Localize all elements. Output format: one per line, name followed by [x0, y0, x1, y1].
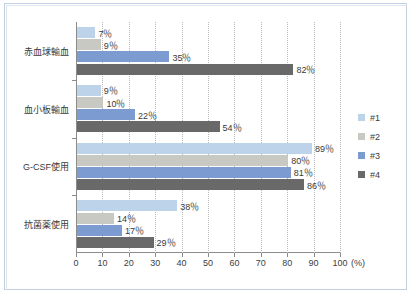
chart-page: 0102030405060708090100(%)7％9％35％82％9％10％… — [0, 0, 413, 296]
x-axis-tick — [287, 253, 288, 257]
x-axis-tick — [155, 253, 156, 257]
bar-series1-1 — [77, 27, 95, 38]
y-axis-tick — [72, 80, 76, 81]
bar-series3-2 — [77, 109, 135, 120]
x-axis-tick-label: 90 — [309, 258, 319, 268]
legend-swatch-icon — [358, 171, 365, 178]
y-axis-tick — [72, 195, 76, 196]
x-axis-tick-label: 30 — [150, 258, 160, 268]
bar-series4-3 — [77, 179, 304, 190]
bar-series2-3 — [77, 155, 288, 166]
bar-series1-4 — [77, 200, 177, 211]
category-label: 赤血球輸血 — [24, 44, 69, 57]
x-axis-tick-label: 20 — [124, 258, 134, 268]
x-axis-tick-label: 0 — [73, 258, 78, 268]
bar-series3-4 — [77, 225, 122, 236]
x-gridline — [261, 22, 262, 253]
x-axis-tick — [76, 253, 77, 257]
bar-series2-1 — [77, 39, 101, 50]
bar-series2-2 — [77, 97, 103, 108]
legend-swatch-icon — [358, 133, 365, 140]
bar-series2-4 — [77, 213, 114, 224]
legend-label: #4 — [370, 170, 380, 180]
x-axis-tick-label: 50 — [203, 258, 213, 268]
bar-series4-1 — [77, 64, 293, 75]
x-axis-unit-label: (%) — [351, 258, 365, 268]
bar-value-label: 22％ — [138, 108, 157, 121]
x-gridline — [314, 22, 315, 253]
x-gridline — [208, 22, 209, 253]
bar-series4-2 — [77, 121, 220, 132]
bar-value-label: 35％ — [172, 50, 191, 63]
bar-value-label: 38％ — [180, 199, 199, 212]
bar-series3-1 — [77, 51, 169, 62]
bar-value-label: 9％ — [104, 84, 118, 97]
plot-area: 0102030405060708090100(%)7％9％35％82％9％10％… — [76, 22, 340, 253]
category-label: 血小板輸血 — [24, 102, 69, 115]
bar-value-label: 54％ — [223, 120, 242, 133]
x-axis-tick — [129, 253, 130, 257]
x-axis-tick — [234, 253, 235, 257]
bar-value-label: 9％ — [104, 38, 118, 51]
legend-label: #3 — [370, 151, 380, 161]
x-axis-tick — [261, 253, 262, 257]
bar-series1-2 — [77, 85, 101, 96]
legend-item[interactable]: #1 — [358, 110, 404, 125]
x-gridline — [287, 22, 288, 253]
x-axis-tick-label: 100 — [332, 258, 347, 268]
bar-value-label: 10％ — [106, 96, 125, 109]
x-axis-tick-label: 80 — [282, 258, 292, 268]
chart-legend: #1#2#3#4 — [358, 110, 404, 186]
x-axis-tick — [182, 253, 183, 257]
legend-item[interactable]: #4 — [358, 167, 404, 182]
bar-value-label: 89％ — [315, 142, 334, 155]
bar-value-label: 82％ — [296, 63, 315, 76]
bar-value-label: 7％ — [98, 26, 112, 39]
legend-item[interactable]: #2 — [358, 129, 404, 144]
x-axis-tick — [208, 253, 209, 257]
x-axis-tick-label: 70 — [256, 258, 266, 268]
legend-swatch-icon — [358, 114, 365, 121]
bar-value-label: 17％ — [125, 224, 144, 237]
legend-swatch-icon — [358, 152, 365, 159]
x-axis-tick — [102, 253, 103, 257]
legend-label: #2 — [370, 132, 380, 142]
x-axis-tick-label: 40 — [177, 258, 187, 268]
x-axis-tick — [340, 253, 341, 257]
legend-item[interactable]: #3 — [358, 148, 404, 163]
x-gridline — [234, 22, 235, 253]
bar-value-label: 29％ — [157, 236, 176, 249]
category-label: G-CSF使用 — [23, 160, 69, 173]
y-axis-tick — [72, 138, 76, 139]
bar-series1-3 — [77, 143, 312, 154]
bar-series4-4 — [77, 237, 154, 248]
legend-label: #1 — [370, 113, 380, 123]
bar-value-label: 14％ — [117, 212, 136, 225]
x-axis-tick — [314, 253, 315, 257]
x-axis-tick-label: 10 — [97, 258, 107, 268]
category-label: 抗菌薬使用 — [24, 218, 69, 231]
bar-value-label: 81％ — [294, 166, 313, 179]
x-axis-tick-label: 60 — [229, 258, 239, 268]
bar-value-label: 86％ — [307, 178, 326, 191]
x-gridline — [340, 22, 341, 253]
bar-series3-3 — [77, 167, 291, 178]
bar-value-label: 80％ — [291, 154, 310, 167]
